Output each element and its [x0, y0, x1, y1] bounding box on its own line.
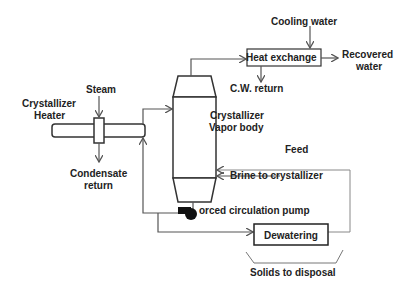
- label-cooling-water: Cooling water: [271, 16, 337, 28]
- label-crystallizer-heater-1: Crystallizer: [22, 98, 76, 110]
- heater-to-vessel-line: [143, 109, 172, 124]
- label-heat-exchange: Heat exchange: [246, 52, 317, 64]
- label-steam: Steam: [86, 84, 116, 96]
- label-recovered-water-2: water: [356, 61, 382, 73]
- heater-steam-jacket: [94, 118, 104, 143]
- label-dewatering: Dewatering: [264, 230, 318, 242]
- label-recovered-water-1: Recovered: [342, 49, 393, 61]
- label-vapor-body-1: Crystallizer: [210, 110, 264, 122]
- label-solids: Solids to disposal: [250, 267, 336, 279]
- label-crystallizer-heater-2: Heater: [34, 110, 65, 122]
- label-brine: Brine to crystallizer: [230, 170, 323, 182]
- label-cw-return: C.W. return: [230, 83, 283, 95]
- label-feed: Feed: [285, 144, 308, 156]
- label-condensate-2: return: [84, 180, 113, 192]
- label-condensate-1: Condensate: [70, 168, 127, 180]
- vapor-line: [191, 59, 246, 76]
- pump-icon: [178, 207, 197, 220]
- label-vapor-body-2: Vapor body: [209, 122, 263, 134]
- solids-bracket: [246, 250, 343, 263]
- label-pump: orced circulation pump: [199, 205, 310, 217]
- crystallizer-vessel: [173, 76, 216, 202]
- process-flow-diagram: [0, 0, 414, 296]
